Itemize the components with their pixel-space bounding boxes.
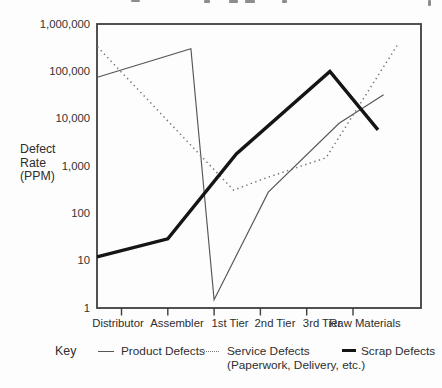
scanned-defect-rate-figure: Defect Rate (PPM) 1,000,000100,00010,000… <box>0 0 442 388</box>
key-label: Key <box>55 344 76 358</box>
chart-key: Key Product Defects Service Defects (Pap… <box>0 0 442 388</box>
legend-service-defects-subtitle: (Paperwork, Delivery, etc.) <box>227 358 365 372</box>
legend-service-defects: Service Defects <box>227 344 310 358</box>
scrap-defects-line-sample <box>342 349 356 352</box>
product-defects-line-sample <box>98 351 114 352</box>
legend-scrap-defects: Scrap Defects <box>361 344 435 358</box>
legend-product-defects: Product Defects <box>121 344 205 358</box>
service-defects-line-sample <box>204 351 219 352</box>
